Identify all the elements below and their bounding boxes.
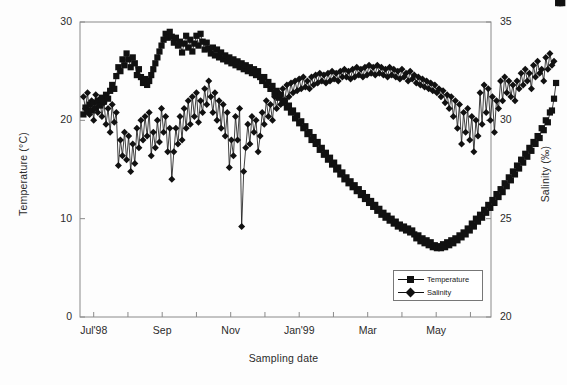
- x-tick-4: Mar: [338, 324, 398, 336]
- x-tick-3: Jan'99: [269, 324, 329, 336]
- y-tick-right-25: 25: [500, 212, 530, 224]
- y-tick-left-10: 10: [42, 212, 72, 224]
- legend-square-marker-icon: [398, 274, 424, 285]
- legend: Temperature Salinity: [393, 270, 483, 301]
- y-tick-left-20: 20: [42, 113, 72, 125]
- legend-item-salinity: Salinity: [398, 286, 451, 299]
- x-tick-0: Jul'98: [64, 324, 124, 336]
- legend-label-salinity: Salinity: [427, 288, 451, 297]
- series-temperature: [80, 0, 565, 251]
- y-tick-left-30: 30: [42, 15, 72, 27]
- y-tick-left-0: 0: [42, 310, 72, 322]
- data-series-group: [80, 0, 565, 251]
- x-tick-1: Sep: [132, 324, 192, 336]
- y-tick-right-35: 35: [500, 15, 530, 27]
- x-tick-2: Nov: [201, 324, 261, 336]
- y-tick-right-20: 20: [500, 310, 530, 322]
- x-tick-5: May: [406, 324, 466, 336]
- y-tick-right-30: 30: [500, 113, 530, 125]
- legend-label-temperature: Temperature: [427, 275, 469, 284]
- legend-diamond-marker-icon: [398, 287, 424, 298]
- legend-item-temperature: Temperature: [398, 273, 469, 286]
- figure-canvas: Temperature (°C) Salinity (‰) Sampling d…: [0, 0, 567, 385]
